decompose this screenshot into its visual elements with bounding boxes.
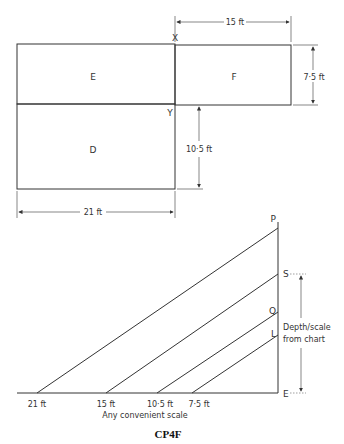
point-e: E [283,389,289,399]
point-y: Y [166,108,173,118]
room-label-d: D [90,145,97,155]
scale-chart [17,222,278,393]
ray-10-5ft [157,312,278,393]
dim-label-21ft: 21 ft [84,208,103,217]
diagram-canvas: E F D X Y 15 ft 7·5 ft 10·5 ft 21 ft [0,0,344,444]
dim-label-15ft: 15 ft [226,18,245,27]
room-label-e: E [90,72,96,82]
point-s: S [283,269,289,279]
depth-label-line2: from chart [283,335,325,344]
point-p: P [271,214,277,224]
ray-7-5ft [192,335,278,393]
base-caption: Any convenient scale [102,411,187,420]
room-label-f: F [231,72,236,82]
point-l: L [271,329,276,339]
dim-label-10-5ft: 10·5 ft [186,145,212,154]
dim-label-7-5ft: 7·5 ft [303,73,324,82]
depth-label-line1: Depth/scale [283,323,331,332]
tick-21ft: 21 ft [28,400,47,409]
tick-10-5ft: 10·5 ft [147,400,173,409]
floor-plan [17,44,291,189]
ray-21ft [37,228,278,393]
dim-depth [290,274,306,393]
figure-caption: CP4F [155,428,182,440]
point-q: Q [269,306,276,316]
room-e [17,44,175,104]
ray-15ft [106,274,278,393]
tick-7-5ft: 7·5 ft [188,400,209,409]
tick-15ft: 15 ft [97,400,116,409]
